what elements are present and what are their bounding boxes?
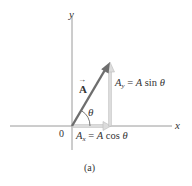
figure-caption: (a) <box>84 163 95 173</box>
x-axis-label: x <box>175 120 180 131</box>
vector-a-label: → A <box>79 84 87 95</box>
ay-subscript: y <box>121 82 124 90</box>
y-axis-label: y <box>69 9 74 20</box>
vector-arrow-icon: → <box>78 76 86 84</box>
ay-equals: = <box>127 77 136 88</box>
angle-theta-label: θ <box>88 107 93 118</box>
ax-equals: = <box>88 130 97 141</box>
ay-expr-theta: θ <box>160 77 165 88</box>
ax-expr-fn: cos <box>103 130 122 141</box>
x-component-label: Ax = A cos θ <box>76 131 128 143</box>
ax-expr-theta: θ <box>122 130 127 141</box>
y-component-label: Ay = A sin θ <box>115 78 165 90</box>
origin-label: 0 <box>59 129 64 139</box>
ax-subscript: x <box>82 135 85 143</box>
ay-expr-fn: sin <box>142 77 160 88</box>
vector-diagram <box>0 0 192 186</box>
vector-a-name: A <box>79 83 87 95</box>
